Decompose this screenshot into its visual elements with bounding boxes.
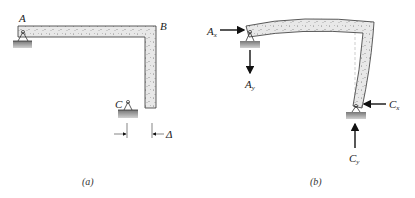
label-cx: Cx — [389, 98, 400, 112]
figure-a: A B C Δ (a) — [13, 12, 172, 188]
label-ay: Ay — [244, 78, 256, 92]
figure-b: Ax Ay Cx Cy (b) — [206, 19, 400, 188]
label-b: B — [160, 20, 167, 32]
reaction-ay: Ay — [244, 50, 256, 92]
reaction-cx: Cx — [364, 98, 400, 112]
frame-member-abc — [18, 26, 156, 108]
reaction-ax: Ax — [206, 25, 244, 39]
label-a: A — [18, 12, 26, 24]
label-c: C — [115, 98, 123, 110]
caption-b: (b) — [310, 176, 322, 188]
diagram-canvas: A B C Δ (a) Ax — [0, 0, 415, 198]
pin-support-c-deformed — [346, 104, 366, 119]
gap-dimension-delta — [114, 123, 164, 138]
label-ax: Ax — [206, 25, 218, 39]
reaction-cy: Cy — [349, 124, 360, 166]
caption-a: (a) — [82, 176, 94, 188]
label-cy: Cy — [349, 152, 360, 166]
label-delta: Δ — [165, 128, 172, 140]
